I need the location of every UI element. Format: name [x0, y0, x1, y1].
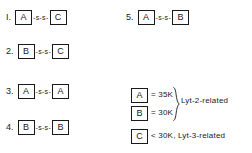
curly-brace-icon: [173, 87, 180, 121]
subunit-box-right: A: [52, 84, 69, 99]
molecule-index: 4.: [6, 123, 14, 132]
subunit-box-legend: C: [131, 129, 148, 144]
subunit-box-left: A: [138, 10, 155, 25]
molecule-index: 5.: [126, 13, 134, 22]
legend: A = 35K B = 30K Lyt-2-related C < 30K, L…: [131, 86, 252, 145]
molecule-index: 3.: [6, 87, 14, 96]
subunit-disulfide-diagram: I. A -s-s- C 2. B -s-s- C 3. A -s-s- A 4…: [0, 0, 252, 153]
subunit-box-legend: A: [131, 88, 148, 103]
legend-grouped-entries: A = 35K B = 30K Lyt-2-related: [131, 86, 252, 122]
legend-value: = 35K: [151, 91, 173, 99]
subunit-box-right: C: [52, 44, 69, 59]
subunit-box-left: A: [15, 10, 32, 25]
disulfide-linker: -s-s-: [35, 88, 53, 95]
disulfide-linker: -s-s-: [35, 124, 53, 131]
molecule-index: 2.: [6, 47, 14, 56]
legend-row-b: B = 30K: [131, 104, 252, 122]
subunit-box-left: B: [18, 120, 35, 135]
molecule-row: 5. A -s-s- B: [126, 10, 189, 25]
legend-row-c: C < 30K, Lyt-3-related: [131, 127, 252, 145]
subunit-box-left: B: [18, 44, 35, 59]
disulfide-linker: -s-s-: [32, 14, 50, 21]
disulfide-linker: -s-s-: [155, 14, 173, 21]
molecule-index: I.: [6, 13, 11, 22]
molecule-row: I. A -s-s- C: [6, 10, 67, 25]
molecule-row: 2. B -s-s- C: [6, 44, 69, 59]
molecule-row: 3. A -s-s- A: [6, 84, 69, 99]
legend-value: < 30K, Lyt-3-related: [151, 132, 225, 140]
legend-group-label: Lyt-2-related: [181, 97, 228, 105]
molecule-row: 4. B -s-s- B: [6, 120, 69, 135]
subunit-box-left: A: [18, 84, 35, 99]
subunit-box-right: B: [52, 120, 69, 135]
subunit-box-right: B: [172, 10, 189, 25]
subunit-box-legend: B: [131, 106, 148, 121]
legend-value: = 30K: [151, 109, 173, 117]
subunit-box-right: C: [50, 10, 67, 25]
disulfide-linker: -s-s-: [35, 48, 53, 55]
